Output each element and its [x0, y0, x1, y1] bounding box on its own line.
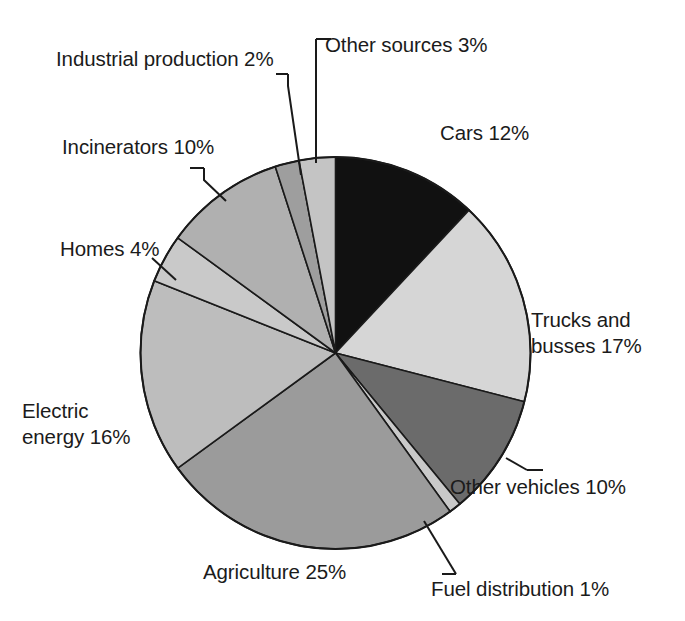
slice-label-other-sources: Other sources 3%: [325, 32, 487, 58]
leader-line-other-vehicles: [506, 458, 527, 470]
slice-label-trucks-and-busses-line2: busses 17%: [531, 333, 642, 359]
slice-label-agriculture: Agriculture 25%: [203, 559, 346, 585]
pie-chart-figure: Other sources 3% Industrial production 2…: [0, 0, 685, 621]
slice-label-electric-energy-line2: energy 16%: [22, 424, 130, 450]
slice-label-cars: Cars 12%: [440, 120, 529, 146]
slice-label-homes: Homes 4%: [60, 236, 159, 262]
leader-line-industrial: [288, 74, 301, 175]
slice-label-trucks-and-busses-line1: Trucks and: [531, 307, 631, 333]
slice-label-other-vehicles: Other vehicles 10%: [450, 474, 626, 500]
slice-label-electric-energy-line1: Electric: [22, 398, 88, 424]
slice-label-industrial-production: Industrial production 2%: [56, 46, 274, 72]
slice-label-fuel-distribution: Fuel distribution 1%: [431, 576, 609, 602]
slice-label-incinerators: Incinerators 10%: [62, 134, 214, 160]
leader-line-fuel: [424, 521, 456, 574]
